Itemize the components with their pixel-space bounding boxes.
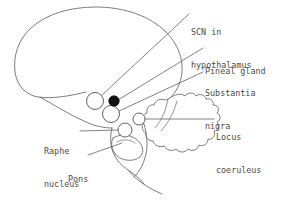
leader-line-pons bbox=[88, 143, 122, 155]
pons-outline bbox=[112, 135, 143, 160]
brain-diagram: SCN in hypothalamus Pineal gland Substan… bbox=[0, 0, 286, 200]
substantia-nigra-marker-circle bbox=[103, 106, 120, 123]
label-locus-coeruleus-line2: coeruleus bbox=[216, 165, 261, 176]
cerebellum-internal-line bbox=[155, 99, 168, 128]
label-substantia-nigra-line1: Substantia bbox=[205, 88, 255, 99]
label-scn-line1: SCN in bbox=[191, 27, 252, 38]
cerebrum-outline bbox=[15, 7, 183, 98]
label-pons: Pons bbox=[68, 152, 88, 200]
pineal-gland-marker-dot bbox=[109, 96, 119, 106]
locus-coeruleus-marker-circle bbox=[133, 113, 145, 125]
leader-line-raphe-nucleus bbox=[80, 130, 118, 131]
pons-inner-line bbox=[117, 140, 135, 143]
label-locus-coeruleus-line1: Locus bbox=[216, 132, 261, 143]
raphe-nucleus-marker-circle bbox=[118, 123, 132, 137]
label-pons-line1: Pons bbox=[68, 174, 88, 185]
cerebellum-internal-line-2 bbox=[161, 101, 177, 131]
label-locus-coeruleus: Locus coeruleus bbox=[216, 110, 261, 198]
scn-marker-circle bbox=[87, 93, 104, 110]
